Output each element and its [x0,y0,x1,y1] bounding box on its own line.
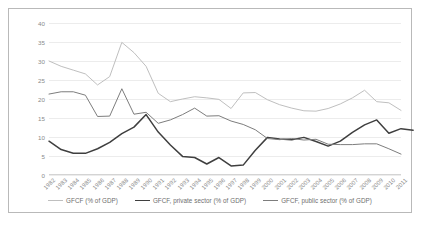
x-tick-label: 1994 [188,177,202,191]
y-axis-labels: 0510152025303540 [9,9,49,175]
y-tick-label: 5 [41,153,45,160]
x-tick-label: 1996 [212,177,226,191]
x-tick-label: 2000 [261,177,275,191]
line-chart-svg [49,23,401,175]
legend-item[interactable]: GFCF, public sector (% of GDP) [263,197,372,204]
x-tick-label: 2010 [382,177,396,191]
legend-label: GFCF, public sector (% of GDP) [281,197,372,204]
y-tick-label: 40 [38,20,45,27]
x-tick-label: 2006 [334,177,348,191]
x-tick-label: 2001 [273,177,287,191]
x-tick-label: 1992 [164,177,178,191]
legend-item[interactable]: GFCF, private sector (% of GDP) [135,197,246,204]
y-tick-label: 35 [38,39,45,46]
x-tick-label: 1990 [140,177,154,191]
y-tick-label: 30 [38,58,45,65]
x-tick-label: 2005 [322,177,336,191]
y-tick-label: 0 [41,172,45,179]
x-tick-label: 1998 [237,177,251,191]
gridline [49,175,401,176]
x-tick-label: 1985 [79,177,93,191]
x-tick-label: 1991 [152,177,166,191]
x-tick-label: 1983 [55,177,69,191]
x-tick-label: 2009 [370,177,384,191]
legend-label: GFCF, private sector (% of GDP) [153,197,246,204]
legend-line-icon [263,200,278,201]
series-layer [49,23,401,175]
series-line [49,115,413,166]
plot-area [49,23,401,175]
legend-item[interactable]: GFCF (% of GDP) [48,197,118,204]
x-tick-label: 1982 [42,177,56,191]
x-tick-label: 1989 [127,177,141,191]
x-tick-label: 1986 [91,177,105,191]
legend-line-icon [135,200,150,201]
x-axis-labels: 1982198319841985198619871988198919901991… [49,177,401,211]
x-tick-label: 2007 [346,177,360,191]
chart-frame: 0510152025303540 19821983198419851986198… [8,8,412,213]
x-tick-label: 1987 [103,177,117,191]
chart-legend: GFCF (% of GDP)GFCF, private sector (% o… [9,197,411,204]
series-line [49,42,401,111]
y-tick-label: 20 [38,96,45,103]
x-tick-label: 1984 [67,177,81,191]
legend-line-icon [48,200,63,201]
x-tick-label: 2003 [297,177,311,191]
legend-label: GFCF (% of GDP) [66,197,118,204]
y-tick-label: 15 [38,115,45,122]
x-tick-label: 1993 [176,177,190,191]
x-tick-label: 2008 [358,177,372,191]
x-tick-label: 2002 [285,177,299,191]
x-tick-label: 1999 [249,177,263,191]
x-tick-label: 1997 [225,177,239,191]
y-tick-label: 25 [38,77,45,84]
series-line [49,89,401,154]
x-tick-label: 1995 [200,177,214,191]
x-tick-label: 2004 [309,177,323,191]
x-tick-label: 1988 [115,177,129,191]
x-tick-label: 2011 [395,177,408,190]
y-tick-label: 10 [38,134,45,141]
